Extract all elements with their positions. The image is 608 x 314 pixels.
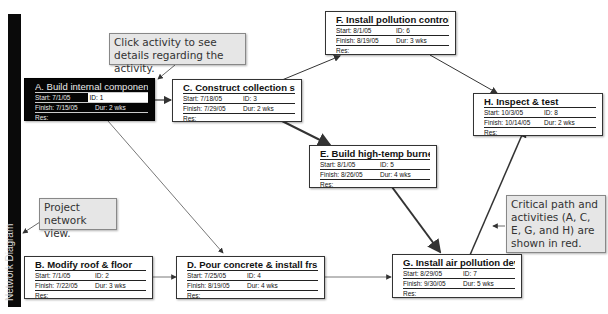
activity-node-b[interactable]: B. Modify roof & floor Start: 7/1/05ID: … (24, 256, 153, 299)
callout-pointer-view (23, 222, 40, 233)
activity-title: C. Construct collection stack (183, 82, 295, 93)
activity-node-a[interactable]: A. Build internal component: Start: 7/1/… (24, 78, 155, 121)
edge-a-d (108, 121, 223, 253)
callout-click-activity: Click activity to see details regarding … (109, 33, 246, 65)
callout-project-view: Project network view. (39, 198, 117, 230)
edge-c-f (282, 56, 340, 80)
callout-pointer-click (158, 65, 175, 79)
callout-critical-path: Critical path and activities (A, C, E, G… (506, 195, 606, 253)
activity-node-g[interactable]: G. Install air pollution device Start: 8… (392, 254, 522, 298)
activity-title: B. Modify roof & floor (35, 259, 146, 270)
edge-e-g (392, 187, 440, 252)
activity-node-d[interactable]: D. Pour concrete & install frs Start: 7/… (176, 256, 325, 299)
activity-node-c[interactable]: C. Construct collection stack Start: 7/1… (172, 79, 302, 122)
activity-title: D. Pour concrete & install frs (187, 259, 318, 270)
activity-title: A. Build internal component: (35, 81, 148, 92)
activity-node-f[interactable]: F. Install pollution control s; Start: 8… (325, 11, 456, 55)
activity-node-e[interactable]: E. Build high-temp burner Start: 8/1/05I… (309, 145, 437, 188)
activity-title: E. Build high-temp burner (320, 148, 430, 159)
edge-c-e (282, 121, 330, 145)
activity-title: F. Install pollution control s; (336, 14, 449, 25)
activity-title: G. Install air pollution device (403, 257, 515, 268)
edge-f-h (430, 55, 497, 93)
activity-title: H. Inspect & test (484, 96, 596, 107)
activity-node-h[interactable]: H. Inspect & test Start: 10/3/05ID: 8 Fi… (473, 93, 603, 136)
